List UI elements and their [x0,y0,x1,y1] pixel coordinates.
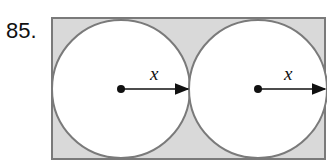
two-circles-in-rectangle-diagram: x x [0,0,327,162]
right-radius-label: x [283,63,293,84]
left-radius-label: x [149,63,159,84]
